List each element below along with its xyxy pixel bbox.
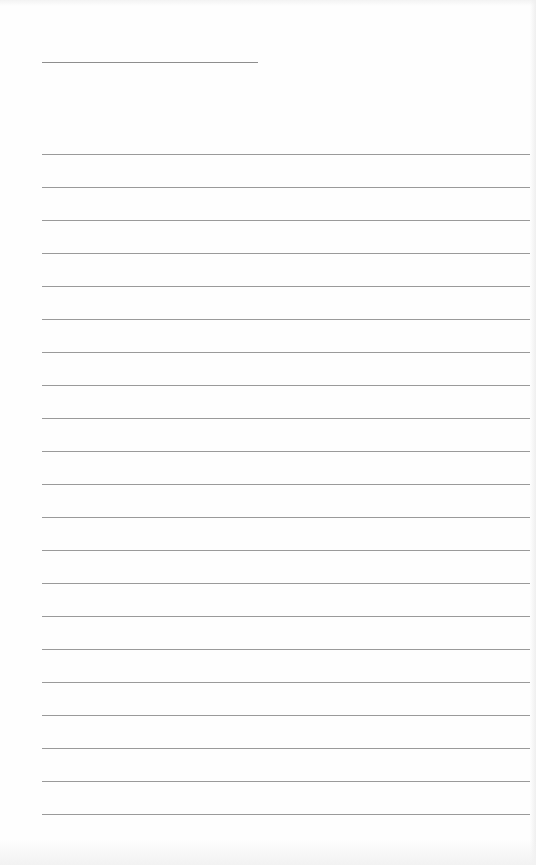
- ruled-line: [42, 451, 530, 452]
- scan-edge-top: [0, 0, 536, 6]
- ruled-line: [42, 781, 530, 782]
- ruled-line: [42, 385, 530, 386]
- ruled-line: [42, 616, 530, 617]
- scan-edge-bottom: [0, 839, 536, 865]
- ruled-line: [42, 517, 530, 518]
- ruled-line: [42, 550, 530, 551]
- ruled-line: [42, 154, 530, 155]
- ruled-line: [42, 220, 530, 221]
- ruled-line: [42, 418, 530, 419]
- ruled-line: [42, 682, 530, 683]
- ruled-line: [42, 187, 530, 188]
- ruled-line: [42, 319, 530, 320]
- ruled-line: [42, 352, 530, 353]
- title-line: [42, 62, 258, 63]
- ruled-line: [42, 715, 530, 716]
- ruled-line: [42, 484, 530, 485]
- ruled-line: [42, 583, 530, 584]
- ruled-line: [42, 748, 530, 749]
- lined-paper-page: [0, 0, 536, 865]
- ruled-line: [42, 814, 530, 815]
- ruled-line: [42, 253, 530, 254]
- ruled-line: [42, 649, 530, 650]
- ruled-line: [42, 286, 530, 287]
- scan-edge-right: [530, 0, 536, 865]
